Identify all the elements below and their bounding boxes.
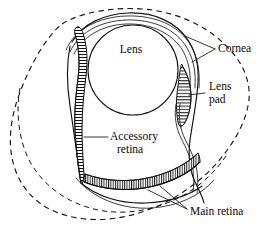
label-lens-pad-line2: pad xyxy=(209,93,226,106)
label-lens-pad-line1: Lens xyxy=(209,80,232,92)
label-accessory-retina-line1: Accessory xyxy=(110,130,158,143)
label-main-retina: Main retina xyxy=(190,205,243,217)
eye-diagram-figure: Lens Cornea Lens pad Accessory retina Ma… xyxy=(0,0,265,238)
label-accessory-retina-line2: retina xyxy=(117,143,143,155)
lens-circle xyxy=(88,25,178,115)
accessory-retina-strip xyxy=(75,27,87,184)
eye-cross-section-svg: Lens Cornea Lens pad Accessory retina Ma… xyxy=(0,0,265,238)
main-retina-band xyxy=(84,153,200,189)
label-cornea: Cornea xyxy=(218,42,251,54)
label-lens: Lens xyxy=(120,43,143,55)
